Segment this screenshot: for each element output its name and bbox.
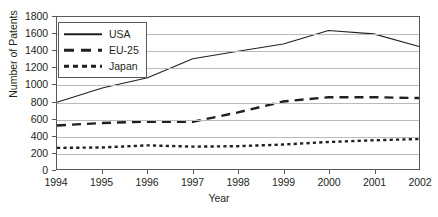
x-tick-label: 2000 [318,177,341,188]
gridline [57,120,419,121]
x-tick-mark [375,170,376,174]
x-tick-mark [147,170,148,174]
y-tick-label: 800 [31,96,48,107]
y-tick-label: 1000 [25,79,48,90]
x-tick-label: 2001 [363,177,386,188]
legend-item-usa: USA [64,26,139,42]
x-tick-mark [329,170,330,174]
legend-label: USA [109,28,131,40]
legend-swatch-dashed-icon [64,44,102,56]
gridline [57,137,419,138]
x-tick-label: 1997 [181,177,204,188]
legend-label: Japan [109,60,138,72]
x-tick-mark [284,170,285,174]
y-tick-label: 400 [31,130,48,141]
x-axis-title: Year [0,192,438,204]
legend-label: EU-25 [109,44,139,56]
gridline [57,85,419,86]
x-axis: 199419951996199719981999200020012002 [0,170,438,194]
x-tick-label: 1995 [90,177,113,188]
legend-item-japan: Japan [64,58,139,74]
x-tick-label: 1996 [136,177,159,188]
legend-swatch-solid-icon [64,28,102,40]
series-line-eu-25 [57,97,419,125]
legend-swatch-dotted-icon [64,60,102,72]
legend-item-eu-25: EU-25 [64,42,139,58]
y-tick-label: 1800 [25,11,48,22]
x-tick-label: 2002 [409,177,432,188]
x-tick-mark [193,170,194,174]
y-tick-label: 600 [31,113,48,124]
chart-legend: USAEU-25Japan [58,22,147,78]
y-tick-label: 200 [31,147,48,158]
patents-line-chart: 180016001400120010008006004002000 Number… [0,0,438,217]
x-tick-label: 1994 [45,177,68,188]
y-tick-label: 1600 [25,28,48,39]
x-tick-mark [238,170,239,174]
y-tick-label: 1200 [25,62,48,73]
gridline [57,154,419,155]
y-axis-title: Number of Patents [7,0,19,119]
gridline [57,103,419,104]
x-tick-label: 1998 [227,177,250,188]
x-tick-mark [102,170,103,174]
y-tick-label: 1400 [25,45,48,56]
series-line-japan [57,139,419,148]
x-tick-label: 1999 [272,177,295,188]
